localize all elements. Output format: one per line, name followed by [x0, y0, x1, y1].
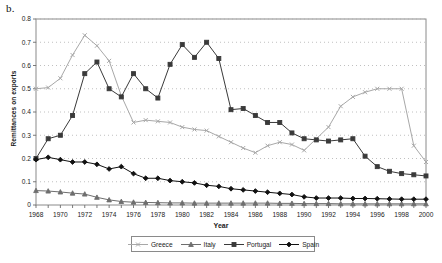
x-tick-label: 1986	[248, 211, 263, 218]
data-point-marker	[375, 165, 379, 169]
legend-label: Greece	[151, 241, 173, 248]
data-point-marker	[83, 72, 87, 76]
data-point-marker	[192, 55, 196, 59]
y-tick-label: 0.7	[22, 39, 31, 46]
data-point-marker	[119, 95, 123, 99]
legend-marker-portugal	[223, 240, 245, 249]
y-tick-label: 0.2	[22, 155, 31, 162]
data-point-marker	[314, 138, 318, 142]
x-axis-title: Year	[0, 222, 442, 229]
legend-item-spain[interactable]: Spain	[278, 240, 319, 249]
data-point-marker	[363, 154, 367, 158]
data-point-marker	[229, 108, 233, 112]
data-point-marker	[180, 43, 184, 47]
y-tick-label: 0.3	[22, 132, 31, 139]
legend-item-greece[interactable]: Greece	[127, 240, 173, 249]
legend-label: Portugal	[247, 241, 272, 248]
legend-item-portugal[interactable]: Portugal	[223, 240, 272, 249]
x-tick-label: 1988	[272, 211, 287, 218]
data-point-marker	[400, 172, 404, 176]
x-tick-label: 1978	[151, 211, 166, 218]
x-tick-label: 1974	[102, 211, 117, 218]
data-point-marker	[339, 138, 343, 142]
y-axis-ticks: 00.10.20.30.40.50.60.70.8	[22, 15, 36, 208]
y-axis-title: Remittances on exports	[10, 34, 17, 184]
x-tick-label: 1990	[297, 211, 312, 218]
data-point-marker	[387, 169, 391, 173]
x-tick-label: 1994	[346, 211, 361, 218]
line-chart-plot: 00.10.20.30.40.50.60.70.8 19681970197219…	[0, 0, 442, 232]
data-point-marker	[132, 72, 136, 76]
y-tick-label: 0.1	[22, 178, 31, 185]
x-tick-label: 1976	[126, 211, 141, 218]
data-point-marker	[351, 137, 355, 141]
data-point-marker	[71, 113, 75, 117]
data-point-marker	[95, 60, 99, 64]
chart-legend: GreeceItalyPortugalSpain	[131, 236, 315, 252]
data-point-marker	[253, 113, 257, 117]
data-point-marker	[424, 174, 428, 178]
legend-marker-italy	[180, 240, 202, 249]
y-tick-label: 0.6	[22, 62, 31, 69]
data-point-marker	[58, 133, 62, 137]
data-point-marker	[144, 87, 148, 91]
legend-marker-greece	[127, 240, 149, 249]
data-point-marker	[278, 120, 282, 124]
y-tick-label: 0	[27, 201, 31, 208]
x-tick-label: 1968	[29, 211, 44, 218]
data-point-marker	[241, 107, 245, 111]
data-point-marker	[302, 137, 306, 141]
data-point-marker	[266, 120, 270, 124]
data-point-marker	[156, 96, 160, 100]
legend-marker-spain	[278, 240, 300, 249]
legend-label: Italy	[204, 241, 216, 248]
legend-label: Spain	[302, 241, 319, 248]
data-point-marker	[287, 242, 292, 247]
x-tick-label: 1984	[224, 211, 239, 218]
figure-panel-b: b. Remittances on exports Year 00.10.20.…	[0, 0, 442, 263]
y-tick-label: 0.5	[22, 85, 31, 92]
data-point-marker	[327, 139, 331, 143]
legend-item-italy[interactable]: Italy	[180, 240, 216, 249]
x-tick-label: 1992	[321, 211, 336, 218]
data-point-marker	[412, 173, 416, 177]
y-tick-label: 0.8	[22, 15, 31, 22]
data-point-marker	[290, 131, 294, 135]
data-point-marker	[232, 242, 236, 246]
panel-label: b.	[6, 2, 15, 14]
x-tick-label: 1972	[77, 211, 92, 218]
data-point-marker	[107, 87, 111, 91]
data-point-marker	[205, 40, 209, 44]
x-tick-label: 1996	[370, 211, 385, 218]
data-point-marker	[168, 62, 172, 66]
x-tick-label: 1970	[53, 211, 68, 218]
x-tick-label: 1980	[175, 211, 190, 218]
y-tick-label: 0.4	[22, 108, 31, 115]
data-point-marker	[217, 57, 221, 61]
x-tick-label: 1998	[394, 211, 409, 218]
x-tick-label: 2000	[419, 211, 434, 218]
x-tick-label: 1982	[199, 211, 214, 218]
data-point-marker	[46, 137, 50, 141]
data-point-marker	[188, 242, 193, 246]
x-axis-ticks: 1968197019721974197619781980198219841986…	[29, 205, 434, 218]
